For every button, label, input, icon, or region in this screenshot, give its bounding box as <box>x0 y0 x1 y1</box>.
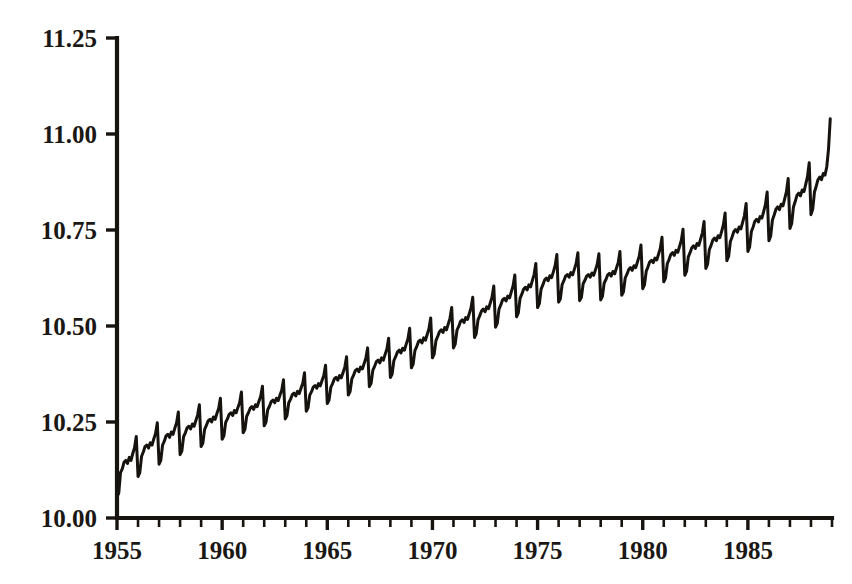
x-tick-label: 1960 <box>197 537 247 564</box>
y-tick-label: 11.00 <box>42 121 97 148</box>
y-axis-tick-labels: 10.0010.2510.5010.7511.0011.25 <box>41 25 97 532</box>
y-tick-label: 10.25 <box>41 409 97 436</box>
x-tick-label: 1965 <box>302 537 352 564</box>
data-line-series-1 <box>117 119 830 497</box>
y-tick-label: 11.25 <box>42 25 97 52</box>
chart-plot-area: 10.0010.2510.5010.7511.0011.25 195519601… <box>0 0 852 584</box>
y-tick-label: 10.00 <box>41 505 97 532</box>
x-tick-label: 1970 <box>407 537 457 564</box>
x-tick-label: 1955 <box>92 537 142 564</box>
x-tick-label: 1985 <box>723 537 773 564</box>
y-axis-group: 10.0010.2510.5010.7511.0011.25 <box>41 25 117 532</box>
y-tick-label: 10.50 <box>41 313 97 340</box>
data-series-group <box>117 119 830 497</box>
x-axis-group: 1955196019651970197519801985 <box>92 518 832 564</box>
chart-figure: 10.0010.2510.5010.7511.0011.25 195519601… <box>0 0 852 584</box>
x-tick-label: 1980 <box>618 537 668 564</box>
y-tick-label: 10.75 <box>41 217 97 244</box>
x-tick-label: 1975 <box>513 537 563 564</box>
x-axis-tick-labels: 1955196019651970197519801985 <box>92 537 773 564</box>
